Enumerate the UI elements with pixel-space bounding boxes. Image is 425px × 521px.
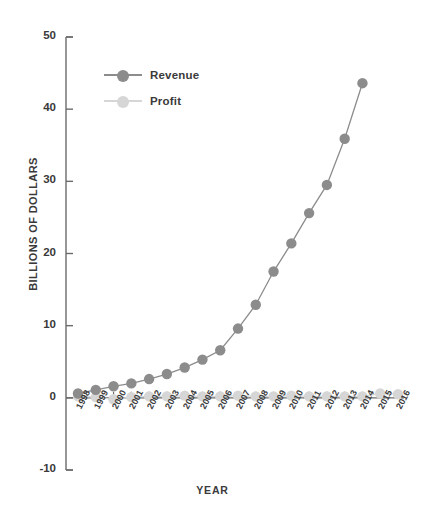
revenue-point[interactable] — [144, 374, 154, 384]
y-tick-label: 20 — [14, 246, 56, 258]
y-tick-label: 40 — [14, 101, 56, 113]
revenue-point[interactable] — [179, 362, 189, 372]
revenue-point[interactable] — [286, 238, 296, 248]
revenue-point[interactable] — [215, 345, 225, 355]
legend-item-profit[interactable]: Profit — [104, 88, 199, 114]
y-tick-label: 50 — [14, 29, 56, 41]
revenue-point[interactable] — [339, 134, 349, 144]
series-revenue — [73, 78, 368, 399]
y-tick-marks — [66, 37, 73, 470]
revenue-point[interactable] — [197, 354, 207, 364]
y-axis-title: BILLIONS OF DOLLARS — [27, 129, 39, 319]
y-tick-label: 0 — [14, 390, 56, 402]
legend-marker-revenue — [104, 68, 142, 82]
legend-marker-profit — [104, 94, 142, 108]
legend-label-profit: Profit — [150, 95, 181, 107]
x-axis-title: YEAR — [0, 484, 425, 496]
y-tick-label: 10 — [14, 318, 56, 330]
revenue-point[interactable] — [251, 300, 261, 310]
y-tick-label: 30 — [14, 173, 56, 185]
revenue-point[interactable] — [126, 378, 136, 388]
plot-area — [0, 0, 425, 521]
chart-container: BILLIONS OF DOLLARS YEAR 50403020100-10 … — [0, 0, 425, 521]
legend-label-revenue: Revenue — [150, 69, 199, 81]
revenue-point[interactable] — [322, 180, 332, 190]
revenue-point[interactable] — [233, 323, 243, 333]
revenue-point[interactable] — [268, 266, 278, 276]
revenue-point[interactable] — [357, 78, 367, 88]
y-tick-label: -10 — [14, 462, 56, 474]
legend-item-revenue[interactable]: Revenue — [104, 62, 199, 88]
revenue-point[interactable] — [162, 369, 172, 379]
revenue-point[interactable] — [304, 208, 314, 218]
legend: Revenue Profit — [104, 62, 199, 114]
